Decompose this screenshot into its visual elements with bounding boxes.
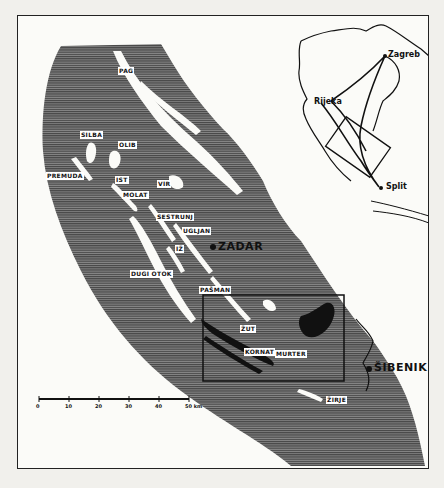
label-rijeka: Rijeka [314, 97, 342, 106]
label-vir: VIR [157, 180, 171, 188]
label-pasman: PAŠMAN [199, 286, 231, 294]
label-molat: MOLAT [122, 191, 149, 199]
scale-tick: 30 [125, 403, 132, 409]
split-marker [379, 186, 383, 190]
label-split: Split [386, 182, 407, 191]
label-sibenik: ŠIBENIK [374, 361, 427, 374]
label-zut: ŽUT [240, 325, 256, 333]
label-ugljan: UGLJAN [182, 227, 211, 235]
scale-tick: 40 [155, 403, 162, 409]
label-ist: IST [115, 176, 129, 184]
label-zagreb: Zagreb [388, 50, 420, 59]
scale-tick: 50 km [185, 403, 202, 409]
label-silba: SILBA [80, 131, 103, 139]
label-premuda: PREMUDA [46, 172, 84, 180]
label-olib: OLIB [118, 141, 137, 149]
label-zadar: ZADAR [218, 240, 263, 253]
label-pag: PAG [118, 67, 134, 75]
label-murter: MURTER [275, 350, 307, 358]
scale-tick: 20 [95, 403, 102, 409]
sibenik-marker [366, 366, 372, 372]
label-dugi-otok: DUGI OTOK [130, 270, 173, 278]
scale-tick: 10 [65, 403, 72, 409]
label-sestrunj: SESTRUNJ [156, 213, 194, 221]
label-kornat: KORNAT [244, 348, 275, 356]
zadar-marker [210, 244, 216, 250]
label-zirje: ŽIRJE [326, 396, 347, 404]
scale-tick: 0 [36, 403, 39, 409]
zagreb-marker [383, 54, 387, 58]
label-iz: IŽ [175, 245, 184, 253]
